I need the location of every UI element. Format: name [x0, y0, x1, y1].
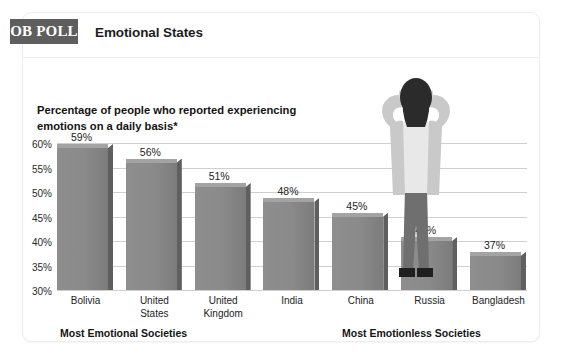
x-axis-category-label: India [263, 295, 320, 321]
y-axis-tick-label: 50% [32, 188, 52, 199]
x-axis-category-label: United States [126, 295, 183, 321]
bar-value-label: 56% [140, 146, 161, 158]
bar-slot: 45% [332, 143, 389, 290]
bar[interactable]: 56% [126, 163, 177, 290]
category-axis: BoliviaUnited StatesUnited KingdomIndiaC… [57, 295, 527, 321]
gridline: 30% [57, 290, 527, 291]
y-axis-tick-label: 30% [32, 286, 52, 297]
x-axis-category-label: China [332, 295, 389, 321]
bar-slot: 59% [57, 143, 114, 290]
bar-value-label: 45% [346, 200, 367, 212]
page-title: Emotional States [95, 25, 203, 40]
x-axis-category-label: Russia [401, 295, 458, 321]
bar-slot: 40% [401, 143, 458, 290]
bar-slot: 51% [195, 143, 252, 290]
bar[interactable]: 45% [332, 217, 383, 291]
bar-slot: 48% [263, 143, 320, 290]
x-axis-category-label: United Kingdom [195, 295, 252, 321]
plot-area: 60%55%50%45%40%35%30% 59%56%51%48%45%40%… [57, 143, 527, 290]
y-axis-tick-label: 40% [32, 237, 52, 248]
bars-layer: 59%56%51%48%45%40%37% [57, 143, 527, 290]
brand-badge-label: OB POLL [10, 24, 78, 39]
bar-slot: 37% [470, 143, 527, 290]
group-label-most-emotional: Most Emotional Societies [60, 327, 187, 339]
y-axis-tick-label: 55% [32, 163, 52, 174]
bar-value-label: 40% [415, 224, 436, 236]
bar-value-label: 37% [484, 239, 505, 251]
bar[interactable]: 59% [57, 148, 108, 290]
y-axis-tick-label: 45% [32, 212, 52, 223]
y-axis-tick-label: 35% [32, 261, 52, 272]
bar-slot: 56% [126, 143, 183, 290]
bar-value-label: 59% [71, 131, 92, 143]
card-header: OB POLL Emotional States [23, 13, 539, 58]
bar[interactable]: 37% [470, 256, 521, 290]
poll-card: OB POLL Emotional States Percentage of p… [22, 12, 540, 342]
brand-badge: OB POLL [10, 19, 78, 44]
bar[interactable]: 51% [195, 187, 246, 290]
bar-value-label: 51% [209, 170, 230, 182]
bar[interactable]: 40% [401, 241, 452, 290]
group-label-most-emotionless: Most Emotionless Societies [342, 327, 481, 339]
x-axis-category-label: Bolivia [57, 295, 114, 321]
bar-value-label: 48% [277, 185, 298, 197]
y-axis-tick-label: 60% [32, 139, 52, 150]
x-axis-category-label: Bangladesh [470, 295, 527, 321]
bar[interactable]: 48% [263, 202, 314, 290]
